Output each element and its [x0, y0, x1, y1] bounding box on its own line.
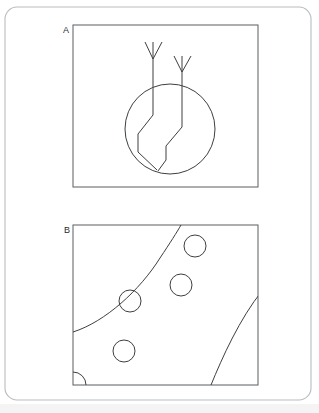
figure-root: A B [0, 0, 319, 413]
panel-b-label: B [64, 225, 70, 235]
figure-canvas: A B [0, 0, 319, 413]
panel-a-label: A [63, 25, 69, 35]
figure-background [0, 0, 319, 413]
bottom-strip [0, 404, 319, 413]
